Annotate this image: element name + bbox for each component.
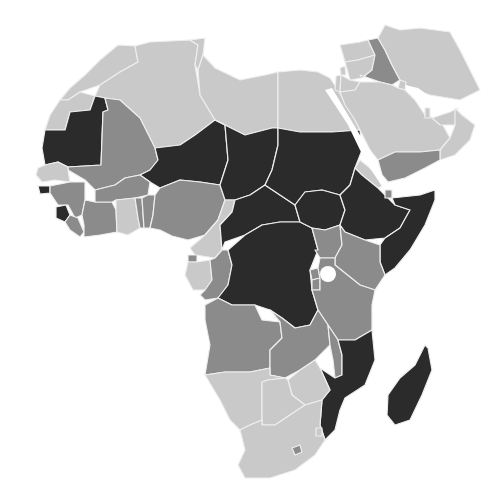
- country-djibouti[interactable]: [385, 190, 392, 198]
- country-senegal[interactable]: [36, 162, 70, 182]
- country-swaziland[interactable]: [316, 428, 322, 436]
- country-equatorial-guinea[interactable]: [188, 255, 197, 262]
- country-ivory-coast[interactable]: [82, 200, 117, 237]
- map-svg: [0, 0, 496, 487]
- country-madagascar[interactable]: [387, 345, 432, 425]
- country-liberia[interactable]: [65, 215, 84, 237]
- choropleth-map: [0, 0, 496, 487]
- country-guinea-bissau[interactable]: [38, 186, 50, 194]
- country-qatar[interactable]: [425, 108, 430, 118]
- lake-victoria: [320, 266, 336, 282]
- country-lebanon[interactable]: [340, 66, 346, 75]
- country-burundi[interactable]: [312, 278, 320, 290]
